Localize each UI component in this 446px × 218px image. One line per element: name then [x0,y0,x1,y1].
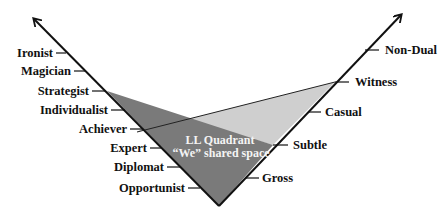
label-magician: Magician [21,64,71,78]
label-achiever: Achiever [79,122,127,136]
label-individualist: Individualist [40,103,109,117]
label-ironist: Ironist [17,46,54,60]
label-expert: Expert [110,141,148,155]
center-label-line1: LL Quadrant [185,133,254,147]
label-opportunist: Opportunist [119,181,186,195]
label-witness: Witness [355,75,397,89]
quadrant-diagram: Ironist Magician Strategist Individualis… [0,0,446,218]
label-casual: Casual [325,105,362,119]
center-label-line2: “We” shared space [172,146,270,160]
label-diplomat: Diplomat [114,160,165,174]
label-subtle: Subtle [293,138,327,152]
label-gross: Gross [262,171,293,185]
label-non-dual: Non-Dual [385,43,438,57]
label-strategist: Strategist [38,84,90,98]
